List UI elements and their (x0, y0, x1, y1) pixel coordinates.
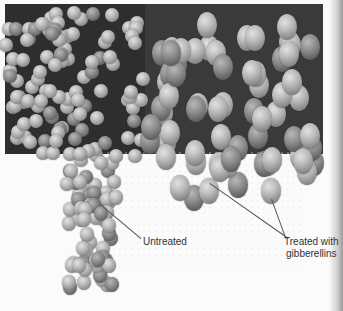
grape-berry (68, 132, 82, 146)
grape-berry (3, 69, 17, 83)
grape-berry (86, 7, 100, 21)
grape-berry (293, 148, 313, 174)
grape-berry (103, 50, 117, 64)
grape-berry (186, 96, 206, 122)
grape-berry (73, 175, 87, 189)
treated-label-line1: Treated with (284, 236, 339, 248)
grape-figure: Untreated Treated with gibberellins (0, 0, 343, 311)
grape-berry (16, 53, 30, 67)
grape-berry (33, 65, 47, 79)
grape-berry (98, 136, 112, 150)
untreated-label: Untreated (143, 236, 187, 248)
grape-berry (49, 134, 63, 148)
grape-berry (262, 147, 282, 173)
grape-berry (76, 241, 90, 256)
grape-berry (300, 123, 320, 149)
grape-berry (20, 33, 34, 47)
grape-berry (73, 107, 87, 121)
grape-berry (46, 146, 60, 160)
grape-berry (21, 94, 35, 108)
grape-berry (85, 55, 99, 69)
grape-berry (128, 36, 142, 50)
grape-berry (252, 106, 272, 132)
treated-label-line2: gibberellins (284, 248, 339, 260)
grape-berry (160, 120, 180, 146)
grape-berry (94, 156, 108, 170)
grape-berry (105, 8, 119, 22)
page-edge-shadow (329, 0, 343, 311)
grape-berry (105, 277, 119, 292)
treated-label: Treated with gibberellins (284, 236, 339, 260)
grape-berry (199, 178, 219, 204)
grape-berry (73, 147, 87, 161)
grape-berry (208, 96, 228, 122)
grape-berry (156, 144, 176, 170)
grape-berry (66, 27, 80, 41)
grape-berry (9, 22, 23, 36)
grape-berry (23, 135, 37, 149)
grape-berry (77, 275, 91, 290)
grape-berry (60, 177, 74, 191)
grape-berry (161, 40, 181, 66)
grape-berry (77, 212, 91, 227)
grape-berry (91, 252, 105, 267)
grape-berry (109, 149, 123, 163)
grape-berry (197, 12, 217, 38)
grape-berry (279, 41, 299, 67)
grape-berry (102, 218, 116, 233)
grape-berry (141, 114, 161, 140)
grape-berry (136, 72, 150, 86)
